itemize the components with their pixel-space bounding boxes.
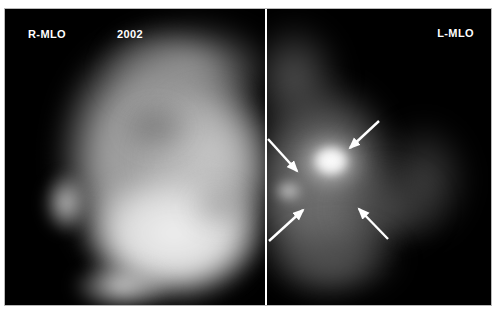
breast-tissue-bottom-edge (73, 261, 171, 305)
mass-bright-core (313, 146, 349, 176)
panel-divider (265, 9, 267, 305)
year-label: 2002 (117, 28, 143, 40)
tissue-mottle-dark (115, 97, 197, 159)
satellite-density (273, 178, 305, 204)
panel-label-l-mlo: L-MLO (437, 27, 474, 39)
panel-r-mlo: R-MLO 2002 (5, 9, 265, 305)
panel-l-mlo: L-MLO (267, 9, 491, 305)
panel-label-r-mlo: R-MLO (28, 28, 66, 40)
breast-tissue-lower (267, 223, 405, 297)
mammogram-figure: R-MLO 2002 L-MLO (4, 8, 492, 306)
figure-canvas: R-MLO 2002 L-MLO (0, 0, 497, 314)
tissue-mottle-dark (183, 181, 253, 233)
breast-nipple-region (43, 172, 89, 234)
